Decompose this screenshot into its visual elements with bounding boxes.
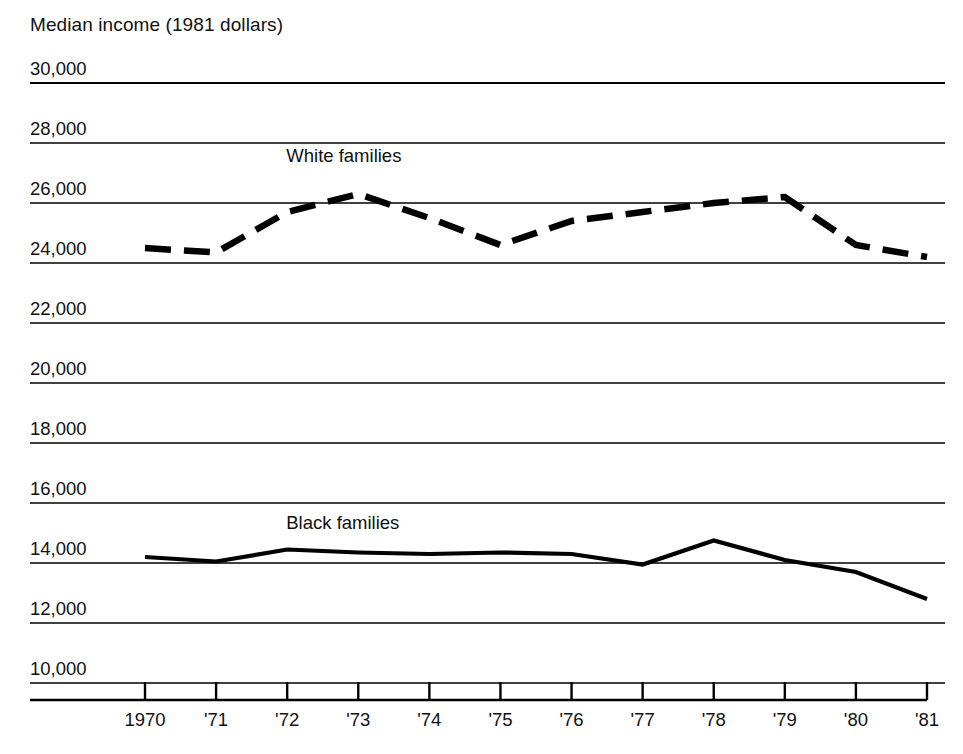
x-tick-label: '80	[844, 709, 868, 731]
y-tick-label: 18,000	[30, 418, 87, 440]
y-tick-label: 28,000	[30, 118, 87, 140]
x-tick-label: '75	[488, 709, 512, 731]
x-axis-group	[30, 682, 927, 700]
y-tick-label: 10,000	[30, 658, 87, 680]
x-tick-label: '76	[559, 709, 583, 731]
x-tick-label: 1970	[124, 709, 165, 731]
x-tick-label: '74	[417, 709, 441, 731]
x-tick-label: '72	[275, 709, 299, 731]
y-tick-label: 16,000	[30, 478, 87, 500]
x-tick-label: '78	[702, 709, 726, 731]
y-tick-label: 30,000	[30, 58, 87, 80]
y-tick-label: 20,000	[30, 358, 87, 380]
y-tick-label: 14,000	[30, 538, 87, 560]
series-label-black-families: Black families	[286, 512, 399, 534]
y-tick-label: 12,000	[30, 598, 87, 620]
chart-container: Median income (1981 dollars) 30,00028,00…	[0, 0, 963, 754]
gridlines-group	[30, 83, 945, 683]
series-label-white-families: White families	[286, 145, 401, 167]
plot-area	[0, 0, 963, 754]
series-group	[145, 194, 927, 599]
y-tick-label: 24,000	[30, 238, 87, 260]
x-tick-label: '81	[915, 709, 939, 731]
x-tick-label: '73	[346, 709, 370, 731]
y-tick-label: 22,000	[30, 298, 87, 320]
x-tick-label: '79	[773, 709, 797, 731]
x-tick-label: '71	[204, 709, 228, 731]
y-tick-label: 26,000	[30, 178, 87, 200]
series-line-black-families	[145, 541, 927, 600]
x-tick-label: '77	[631, 709, 655, 731]
